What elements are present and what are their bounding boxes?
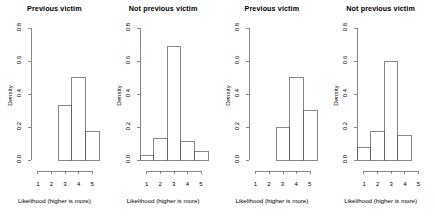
x-tick-label: 4 — [74, 181, 84, 187]
y-tick-label: 0.0 — [234, 150, 240, 168]
histogram-panel: Not previous victimDensityLikelihood (hi… — [109, 0, 218, 216]
x-tick-label: 1 — [142, 181, 152, 187]
x-tick-label: 1 — [250, 181, 260, 187]
histogram-bar — [303, 111, 317, 161]
histogram-bar — [398, 135, 412, 160]
histogram-bar — [194, 152, 208, 160]
y-tick-label: 0.4 — [342, 84, 348, 102]
x-tick-label: 3 — [278, 181, 288, 187]
y-tick-label: 0.8 — [125, 18, 131, 36]
histogram-bar — [72, 78, 86, 161]
y-tick-label: 0.4 — [125, 84, 131, 102]
x-tick-label: 3 — [169, 181, 179, 187]
y-tick-label: 0.8 — [342, 18, 348, 36]
y-tick-label: 0.4 — [234, 84, 240, 102]
x-tick-label: 5 — [305, 181, 315, 187]
y-tick-label: 0.0 — [125, 150, 131, 168]
y-tick-label: 0.6 — [234, 51, 240, 69]
x-tick-label: 4 — [182, 181, 192, 187]
histogram-bar — [371, 131, 385, 160]
histogram-bar — [140, 155, 154, 160]
y-tick-label: 0.0 — [342, 150, 348, 168]
histogram-bar — [58, 106, 72, 160]
y-tick-label: 0.6 — [16, 51, 22, 69]
histogram-bar — [181, 142, 195, 160]
y-tick-label: 0.2 — [342, 117, 348, 135]
y-tick-label: 0.6 — [125, 51, 131, 69]
histogram-bar — [289, 78, 303, 161]
histogram-panel-row: Previous victimDensityLikelihood (higher… — [0, 0, 435, 216]
x-tick-label: 1 — [33, 181, 43, 187]
x-tick-label: 3 — [386, 181, 396, 187]
histogram-bar — [85, 132, 99, 160]
x-tick-label: 3 — [60, 181, 70, 187]
x-tick-label: 2 — [46, 181, 56, 187]
x-tick-label: 4 — [291, 181, 301, 187]
histogram-bar — [276, 127, 290, 160]
histogram-bar — [357, 148, 371, 160]
x-tick-label: 2 — [264, 181, 274, 187]
x-tick-label: 1 — [359, 181, 369, 187]
histogram-panel: Previous victimDensityLikelihood (higher… — [218, 0, 327, 216]
y-tick-label: 0.0 — [16, 150, 22, 168]
histogram-panel: Not previous victimDensityLikelihood (hi… — [326, 0, 435, 216]
histogram-bar — [384, 61, 398, 160]
x-tick-label: 2 — [155, 181, 165, 187]
histogram-bar — [153, 139, 167, 160]
x-tick-label: 5 — [87, 181, 97, 187]
x-tick-label: 5 — [196, 181, 206, 187]
y-tick-label: 0.2 — [16, 117, 22, 135]
y-tick-label: 0.2 — [125, 117, 131, 135]
y-tick-label: 0.6 — [342, 51, 348, 69]
y-tick-label: 0.8 — [16, 18, 22, 36]
x-tick-label: 2 — [373, 181, 383, 187]
histogram-bar — [167, 46, 181, 160]
y-tick-label: 0.4 — [16, 84, 22, 102]
y-tick-label: 0.2 — [234, 117, 240, 135]
y-tick-label: 0.8 — [234, 18, 240, 36]
x-tick-label: 5 — [413, 181, 423, 187]
histogram-panel: Previous victimDensityLikelihood (higher… — [0, 0, 109, 216]
x-tick-label: 4 — [400, 181, 410, 187]
